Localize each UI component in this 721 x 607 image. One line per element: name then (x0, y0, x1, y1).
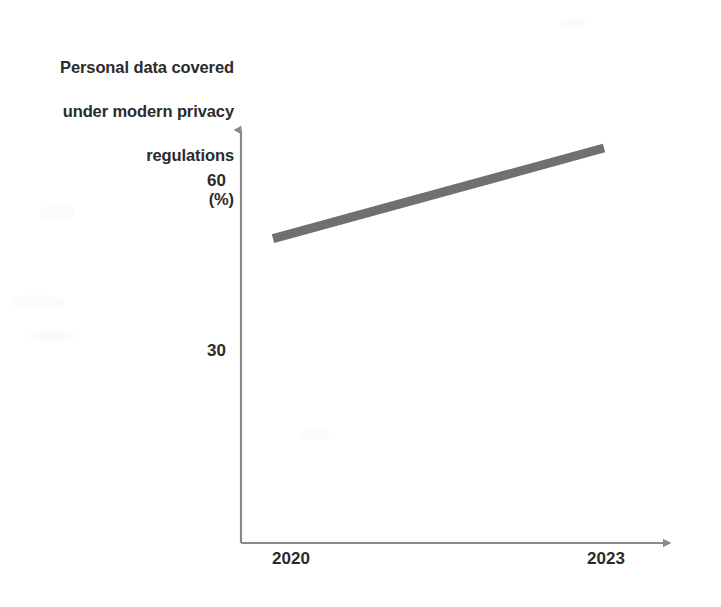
x-axis-tick-label-2023: 2023 (561, 549, 651, 569)
x-axis-tick-label-2020: 2020 (246, 549, 336, 569)
chart-plot-area (0, 0, 721, 607)
y-axis-tick-label-60: 60 (182, 171, 226, 191)
y-axis-tick-label-30: 30 (182, 341, 226, 361)
chart-figure: Personal data covered under modern priva… (0, 0, 721, 607)
data-series-line (273, 148, 604, 239)
